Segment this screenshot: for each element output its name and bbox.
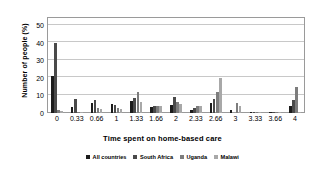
bar xyxy=(230,110,233,113)
x-tick-label: 0.66 xyxy=(90,115,104,122)
bar xyxy=(74,99,77,113)
legend-swatch-icon xyxy=(133,155,137,159)
legend-item: Malawi xyxy=(214,154,239,160)
x-tick-label: 2.33 xyxy=(189,115,203,122)
x-tick-label: 2.66 xyxy=(209,115,223,122)
y-tick-label: 50 xyxy=(18,22,44,29)
legend-label: Malawi xyxy=(221,154,239,160)
x-axis-title: Time spent on home-based care xyxy=(0,134,325,143)
bar xyxy=(199,106,202,113)
y-tick-label: 30 xyxy=(18,57,44,64)
bar xyxy=(219,78,222,113)
legend-label: All countries xyxy=(93,154,127,160)
y-tick-label: 0 xyxy=(18,110,44,117)
x-tick-label: 1 xyxy=(115,115,119,122)
legend-label: Uganda xyxy=(187,154,208,160)
legend-label: South Africa xyxy=(140,154,173,160)
legend-swatch-icon xyxy=(180,155,184,159)
x-tick-label: 2 xyxy=(174,115,178,122)
x-tick-label: 3.33 xyxy=(249,115,263,122)
bar xyxy=(54,43,57,113)
bar xyxy=(279,112,282,113)
legend-item: Uganda xyxy=(180,154,207,160)
x-tick-label: 0 xyxy=(55,115,59,122)
bar xyxy=(159,106,162,113)
bar xyxy=(60,111,63,113)
chart-legend: All countriesSouth AfricaUgandaMalawi xyxy=(0,154,325,160)
legend-item: All countries xyxy=(86,154,126,160)
bar xyxy=(298,112,301,113)
bars-layer xyxy=(47,17,305,113)
bar xyxy=(295,87,298,113)
y-tick-label: 40 xyxy=(18,40,44,47)
x-tick-label: 3 xyxy=(234,115,238,122)
x-tick-label: 4 xyxy=(293,115,297,122)
x-tick-label: 1.66 xyxy=(149,115,163,122)
bar xyxy=(259,112,262,113)
x-tick-label: 1.33 xyxy=(129,115,143,122)
bar xyxy=(239,106,242,113)
bar xyxy=(140,102,143,113)
legend-swatch-icon xyxy=(86,155,90,159)
y-tick-label: 20 xyxy=(18,75,44,82)
bar xyxy=(80,112,83,113)
legend-swatch-icon xyxy=(214,155,218,159)
legend-item: South Africa xyxy=(133,154,173,160)
bar-chart: Number of people (%) 01020304050 00.330.… xyxy=(0,0,325,175)
y-tick-label: 10 xyxy=(18,92,44,99)
bar xyxy=(120,109,123,113)
bar xyxy=(100,109,103,113)
x-tick-label: 3.66 xyxy=(268,115,282,122)
bar xyxy=(179,104,182,113)
x-tick-label: 0.33 xyxy=(70,115,84,122)
